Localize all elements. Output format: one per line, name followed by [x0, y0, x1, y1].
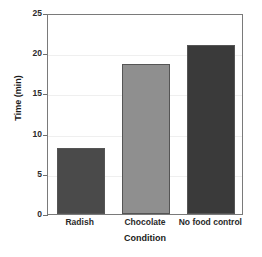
y-tick-label: 20	[24, 49, 42, 58]
x-tick-label: Chocolate	[112, 217, 177, 227]
plot-area	[47, 14, 243, 215]
y-tick-label: 0	[24, 210, 42, 219]
bar-series	[48, 15, 242, 214]
y-axis-tick-labels: 0510152025	[24, 0, 42, 257]
bar	[57, 148, 105, 214]
y-tick-label: 15	[24, 89, 42, 98]
x-axis-tick-labels: RadishChocolateNo food control	[47, 217, 243, 233]
bar-chart-figure: Time (min) 0510152025 RadishChocolateNo …	[0, 0, 262, 257]
x-tick-label: No food control	[178, 217, 243, 227]
x-axis-title: Condition	[47, 233, 243, 243]
y-tick-label: 5	[24, 170, 42, 179]
bar	[122, 64, 170, 214]
y-tick-label: 25	[24, 9, 42, 18]
y-tick-mark	[43, 215, 48, 216]
bar	[187, 45, 235, 214]
x-tick-label: Radish	[47, 217, 112, 227]
y-tick-label: 10	[24, 130, 42, 139]
y-axis-title: Time (min)	[13, 53, 23, 143]
